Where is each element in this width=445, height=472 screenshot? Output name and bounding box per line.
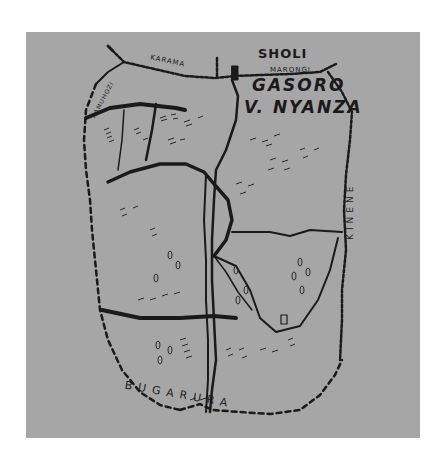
west-boundary — [84, 84, 180, 410]
road-south — [102, 310, 236, 318]
south-boundary — [180, 360, 342, 414]
label-sholi: SHOLI — [258, 46, 307, 61]
map-title-line2: V. NYANZA — [244, 97, 363, 117]
gate-marker — [232, 66, 238, 80]
building-icon — [281, 315, 287, 324]
tree-symbols — [154, 251, 310, 364]
road-east — [232, 230, 342, 236]
map-title-line1: GASORO — [252, 75, 345, 95]
label-kinene: KINENE — [345, 183, 355, 240]
label-marongi: MARONGI — [270, 66, 311, 74]
main-road — [210, 80, 238, 412]
